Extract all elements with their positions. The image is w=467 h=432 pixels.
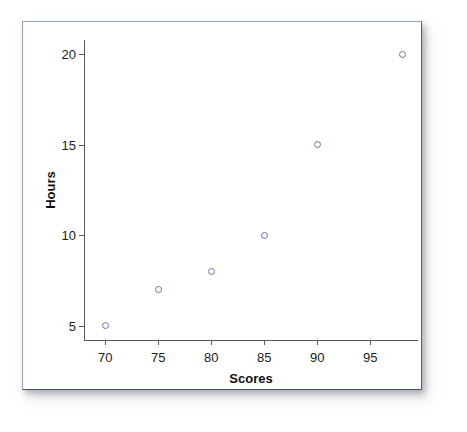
scatter-plot-figure: 5101520 707580859095 Hours Scores [0, 0, 467, 432]
x-tick-mark [211, 340, 212, 345]
data-point-marker [399, 51, 406, 58]
y-tick-label: 20 [62, 47, 76, 62]
data-point-marker [208, 268, 215, 275]
y-axis-title: Hours [43, 171, 58, 209]
x-tick-mark [264, 340, 265, 345]
plot-area [84, 40, 418, 340]
data-point-marker [314, 141, 321, 148]
x-axis-title: Scores [84, 371, 418, 386]
data-point-marker [102, 322, 109, 329]
data-point-marker [155, 286, 162, 293]
y-tick-label: 10 [62, 228, 76, 243]
x-tick-mark [158, 340, 159, 345]
x-tick-label: 90 [310, 350, 324, 365]
y-tick-label: 15 [62, 137, 76, 152]
y-tick-label: 5 [69, 318, 76, 333]
x-tick-label: 70 [98, 350, 112, 365]
x-tick-mark [370, 340, 371, 345]
x-axis-line [84, 340, 418, 341]
x-tick-label: 85 [257, 350, 271, 365]
x-tick-label: 80 [204, 350, 218, 365]
x-tick-label: 95 [363, 350, 377, 365]
x-tick-mark [317, 340, 318, 345]
x-tick-mark [105, 340, 106, 345]
data-point-marker [261, 232, 268, 239]
x-tick-label: 75 [151, 350, 165, 365]
